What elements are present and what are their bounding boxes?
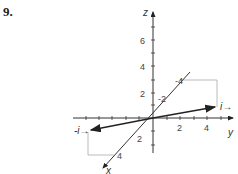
- vector-minus-i: [91, 118, 153, 130]
- vector-i: [153, 107, 215, 118]
- x-tick-2: 2: [137, 134, 142, 144]
- y-axis-label: y: [227, 127, 234, 138]
- z-axis-label: z: [142, 7, 148, 18]
- z-tick-4: 4: [140, 62, 145, 72]
- vector-i-label: i→: [220, 101, 232, 112]
- vector-minus-i-label: -i→: [74, 125, 90, 136]
- x-axis-label: x: [105, 165, 112, 174]
- z-tick-2: 2: [140, 89, 145, 99]
- y-tick-4: 4: [204, 123, 209, 133]
- z-axis: [151, 12, 155, 153]
- y-tick-2: 2: [177, 123, 182, 133]
- x-tick-neg-4: -4: [175, 76, 183, 86]
- z-tick-6: 6: [140, 36, 145, 46]
- x-tick-neg-2: -2: [158, 94, 166, 104]
- vector-diagram: z 6 4 2 y 2 4 x 2 4 -2 -4 i→ -i→: [0, 0, 238, 174]
- x-tick-4: 4: [117, 151, 122, 161]
